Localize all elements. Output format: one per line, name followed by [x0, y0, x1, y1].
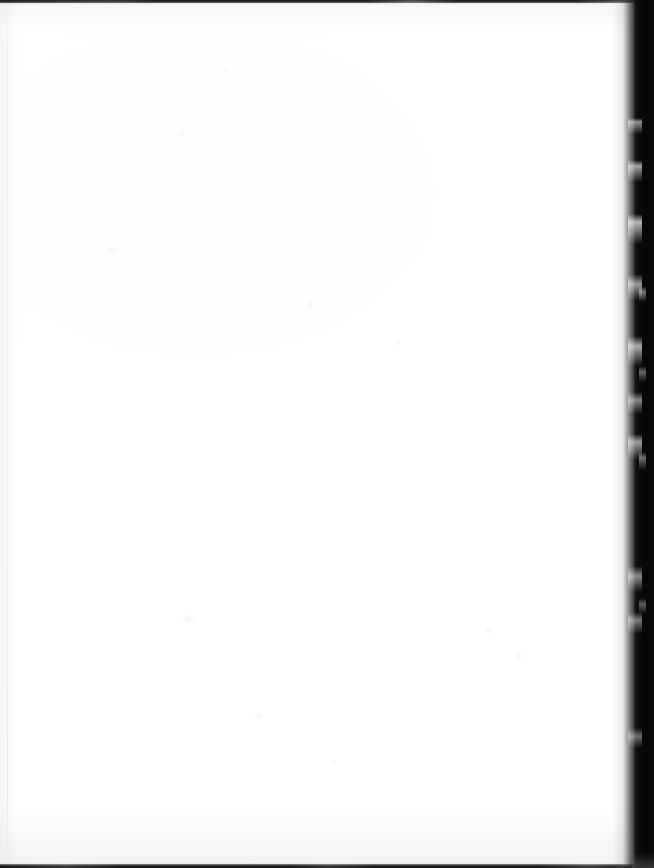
- scan-smudge: [396, 340, 400, 344]
- page-body: [0, 0, 654, 868]
- scan-smudge: [180, 130, 184, 137]
- scan-smudge: [224, 68, 229, 73]
- left-edge-shading: [0, 0, 18, 868]
- scan-smudge: [331, 760, 336, 764]
- gutter-bottom-tail: [632, 852, 654, 868]
- scan-smudge: [184, 616, 193, 622]
- bottom-scan-wash: [0, 807, 654, 863]
- scan-smudge: [256, 714, 262, 719]
- scan-smudge: [308, 300, 313, 309]
- gutter-ragged-edge-secondary: [639, 0, 646, 868]
- top-scan-wash: [0, 4, 654, 34]
- scan-smudge: [486, 628, 491, 633]
- left-margin-tone-line: [7, 0, 8, 868]
- scan-smudge: [517, 654, 521, 660]
- top-scan-edge-line: [0, 0, 654, 4]
- scan-smudge: [108, 248, 115, 253]
- scanned-page-canvas: [0, 0, 654, 868]
- bottom-scan-edge-line: [0, 863, 654, 868]
